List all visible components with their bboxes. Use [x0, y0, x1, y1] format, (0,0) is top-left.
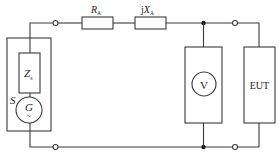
terminal-bottom-right: [233, 145, 238, 150]
eut-label: EUT: [250, 80, 269, 91]
wire-eut-bottom: [238, 123, 260, 147]
wire-eut-top: [238, 23, 260, 47]
resistor-ra: [82, 17, 113, 29]
terminal-top-left: [53, 21, 58, 26]
circuit-diagram: S Zs G ~ RA jXA V EUT: [0, 0, 279, 159]
voltmeter-label: V: [200, 79, 208, 91]
resistor-ra-label: RA: [90, 4, 101, 16]
reactance-xa: [135, 17, 166, 29]
reactance-xa-label: jXA: [140, 4, 154, 16]
source-label: S: [10, 94, 16, 106]
terminal-bottom-left: [53, 145, 58, 150]
terminal-top-right: [233, 21, 238, 26]
generator-tilde: ~: [27, 112, 32, 121]
